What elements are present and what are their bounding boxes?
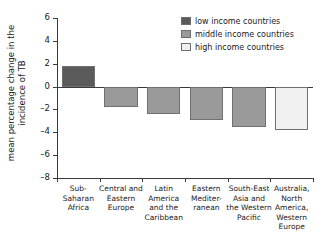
- y-axis-tick-label: 2: [45, 58, 50, 68]
- y-axis-tick-label: –8: [40, 172, 50, 182]
- legend-item-label: low income countries: [195, 17, 280, 26]
- y-axis-tick: –4: [53, 132, 57, 133]
- legend-swatch-icon: [181, 17, 191, 25]
- bar: [147, 87, 180, 114]
- bar: [275, 87, 308, 130]
- x-axis-tick: [142, 178, 143, 182]
- legend-item-label: middle income countries: [195, 30, 294, 39]
- x-axis-category-label: Australia,NorthAmerica,WesternEurope: [268, 184, 315, 232]
- legend-item: high income countries: [181, 41, 294, 53]
- y-axis-line: [57, 18, 58, 178]
- bar: [104, 87, 137, 108]
- x-axis-category-label: Sub-SaharanAfrica: [55, 184, 102, 213]
- bar: [62, 66, 95, 87]
- bar: [232, 87, 265, 127]
- legend-item: middle income countries: [181, 28, 294, 40]
- y-axis-title-line-1: mean percentage change in the: [6, 24, 16, 160]
- x-axis-category-label: LatinAmericaand theCaribbean: [140, 184, 187, 222]
- x-axis-tick: [57, 178, 58, 182]
- legend-item: low income countries: [181, 15, 294, 27]
- y-axis-tick: 2: [53, 64, 57, 65]
- y-axis-tick: 4: [53, 41, 57, 42]
- y-axis-tick: –6: [53, 155, 57, 156]
- bar: [190, 87, 223, 120]
- x-axis-category-label: South-EastAsia andthe WesternPacific: [226, 184, 273, 222]
- y-axis-tick: –2: [53, 109, 57, 110]
- x-axis-tick: [100, 178, 101, 182]
- y-axis-tick: 6: [53, 18, 57, 19]
- legend-item-label: high income countries: [195, 43, 284, 52]
- legend-swatch-icon: [181, 30, 191, 38]
- x-axis-tick: [313, 178, 314, 182]
- x-axis-tick: [228, 178, 229, 182]
- y-axis-tick-label: 4: [45, 35, 50, 45]
- y-axis-tick: 0: [53, 87, 57, 88]
- x-axis-category-label: EasternMediter-ranean: [183, 184, 230, 213]
- y-axis-title: mean percentage change in the incidence …: [0, 0, 34, 185]
- x-axis-tick: [270, 178, 271, 182]
- y-axis-tick-label: –4: [40, 126, 50, 136]
- x-axis-category-label: Central andEasternEurope: [98, 184, 145, 213]
- y-axis-tick-label: –6: [40, 149, 50, 159]
- legend-swatch-icon: [181, 43, 191, 51]
- y-axis-tick-label: 0: [45, 81, 50, 91]
- legend: low income countriesmiddle income countr…: [181, 15, 294, 54]
- y-axis-title-line-2: incidence of TB: [17, 24, 28, 160]
- x-axis-tick: [185, 178, 186, 182]
- y-axis-tick-label: 6: [45, 12, 50, 22]
- y-axis-tick-label: –2: [40, 103, 50, 113]
- chart-figure: mean percentage change in the incidence …: [0, 0, 324, 241]
